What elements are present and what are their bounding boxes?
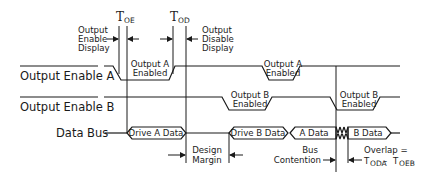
bus-label-b-data: B Data xyxy=(353,128,382,138)
svg-text:Contention: Contention xyxy=(274,155,321,165)
svg-text:-: - xyxy=(384,156,387,166)
svg-text:T: T xyxy=(392,156,399,166)
output-enable-display-label: Output Enable Display xyxy=(78,25,110,53)
svg-text:OD: OD xyxy=(178,16,190,25)
svg-text:Enabled: Enabled xyxy=(342,99,377,109)
svg-text:Enabled: Enabled xyxy=(133,68,168,78)
svg-text:Display: Display xyxy=(202,43,234,53)
svg-text:Bus: Bus xyxy=(302,145,318,155)
oeb-pulse-label-1: Output B Enabled xyxy=(231,90,270,109)
svg-text:Output Enable A: Output Enable A xyxy=(20,69,114,83)
signal-output-enable-a: Output Enable A xyxy=(20,66,114,83)
svg-text:T: T xyxy=(170,10,178,24)
svg-text:OE: OE xyxy=(124,16,135,25)
oea-pulse-label-2: Output A Enabled xyxy=(264,59,303,78)
svg-text:Margin: Margin xyxy=(192,155,221,165)
svg-text:Enabled: Enabled xyxy=(266,68,301,78)
svg-text:T: T xyxy=(363,156,370,166)
bus-label-a-data: A Data xyxy=(299,128,328,138)
svg-text:Overlap =: Overlap = xyxy=(364,145,408,155)
svg-text:Display: Display xyxy=(78,43,110,53)
t-oe-label: T OE xyxy=(116,10,135,25)
svg-text:OEB: OEB xyxy=(399,159,415,168)
bus-label-drive-a: Drive A Data xyxy=(129,128,184,138)
bus-contention-crosshatch xyxy=(336,127,348,139)
bus-contention-annotation: Bus Contention xyxy=(274,145,335,165)
svg-text:Data Bus: Data Bus xyxy=(56,126,108,140)
t-od-label: T OD xyxy=(170,10,190,25)
design-margin-annotation: Design Margin xyxy=(168,145,243,165)
output-disable-display-label: Output Disable Display xyxy=(202,25,234,53)
svg-text:Enabled: Enabled xyxy=(233,99,268,109)
svg-text:T: T xyxy=(116,10,124,24)
bus-label-drive-b: Drive B Data xyxy=(231,128,286,138)
overlap-annotation: Overlap = T ODA - T OEB xyxy=(349,145,415,168)
svg-text:Output Enable B: Output Enable B xyxy=(20,100,114,114)
signal-data-bus: Data Bus xyxy=(56,126,108,140)
oeb-pulse-label-2: Output B Enabled xyxy=(340,90,379,109)
timing-diagram: T OE T OD Output Enable Display Output D… xyxy=(0,0,425,182)
signal-output-enable-b: Output Enable B xyxy=(20,97,114,114)
oea-pulse-label-1: Output A Enabled xyxy=(131,59,170,78)
svg-text:Design: Design xyxy=(192,145,222,155)
